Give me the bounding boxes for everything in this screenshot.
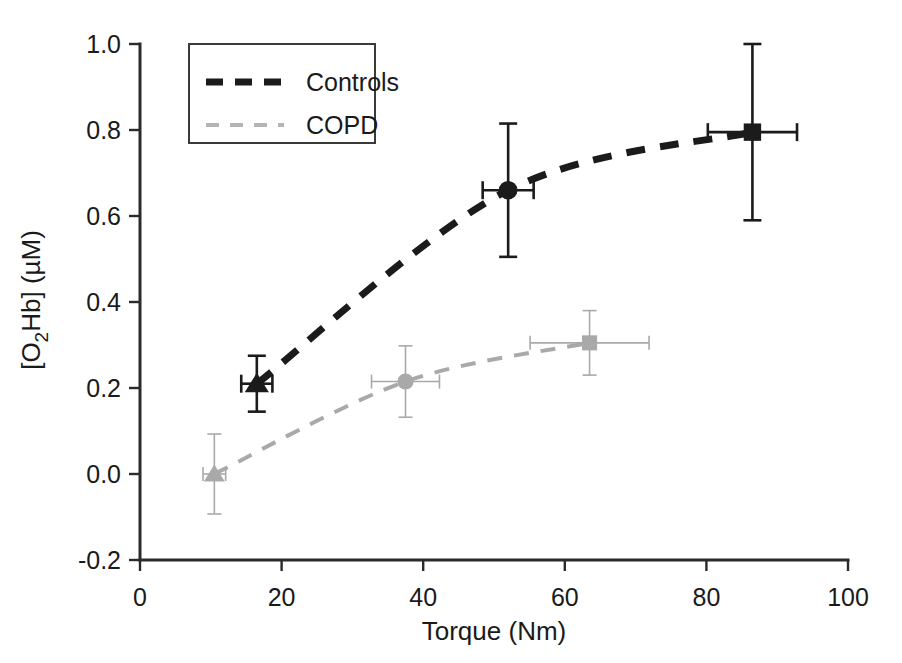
chart-legend: ControlsCOPD — [189, 44, 399, 143]
y-tick-label: 0.8 — [86, 116, 121, 144]
x-tick-label: 80 — [692, 583, 720, 611]
y-tick-label: 0.0 — [86, 460, 121, 488]
x-axis-ticks — [140, 560, 848, 571]
series-copd — [203, 311, 649, 514]
y-tick-label: 0.2 — [86, 374, 121, 402]
y-tick-label: 0.6 — [86, 202, 121, 230]
y-tick-label: 1.0 — [86, 30, 121, 58]
x-tick-label: 0 — [133, 583, 147, 611]
x-axis-tick-labels: 020406080100 — [133, 583, 869, 611]
chart-figure: 1.00.80.60.40.20.0-0.2 020406080100 Torq… — [0, 0, 902, 663]
series-curve — [214, 343, 589, 474]
chart-plot-area: 1.00.80.60.40.20.0-0.2 020406080100 Torq… — [0, 0, 902, 663]
data-point-square — [744, 123, 761, 140]
x-tick-label: 20 — [268, 583, 296, 611]
y-axis-title: [O2Hb] (µM) — [16, 230, 52, 370]
x-tick-label: 100 — [827, 583, 869, 611]
data-point-square — [582, 335, 597, 350]
data-point-triangle — [204, 465, 225, 482]
y-tick-label: -0.2 — [78, 546, 121, 574]
x-tick-label: 60 — [551, 583, 579, 611]
legend-label: COPD — [306, 111, 378, 139]
data-point-circle — [499, 181, 518, 200]
data-point-circle — [397, 373, 413, 389]
y-axis-tick-labels: 1.00.80.60.40.20.0-0.2 — [78, 30, 121, 574]
x-tick-label: 40 — [409, 583, 437, 611]
legend-label: Controls — [306, 68, 399, 96]
svg-text:[O2Hb] (µM): [O2Hb] (µM) — [16, 230, 52, 370]
y-tick-label: 0.4 — [86, 288, 121, 316]
x-axis-title: Torque (Nm) — [422, 616, 566, 646]
y-axis-ticks — [129, 44, 140, 560]
